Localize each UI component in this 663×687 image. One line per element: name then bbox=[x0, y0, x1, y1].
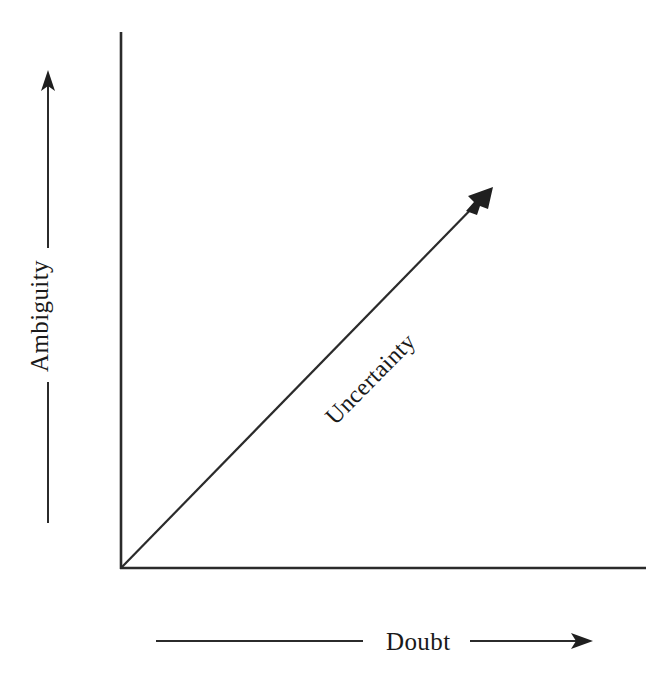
diagram-canvas: Ambiguity Doubt Uncertainty bbox=[0, 0, 663, 687]
uncertainty-diagram: Ambiguity Doubt Uncertainty bbox=[0, 0, 663, 687]
x-axis-label-text: Doubt bbox=[386, 628, 451, 655]
uncertainty-label-text: Uncertainty bbox=[320, 328, 420, 429]
y-axis-label-text: Ambiguity bbox=[26, 260, 53, 372]
uncertainty-line bbox=[121, 199, 481, 568]
uncertainty-arrowhead-icon bbox=[466, 187, 493, 215]
uncertainty-arrow-group bbox=[121, 187, 493, 568]
x-axis-label-group bbox=[156, 633, 593, 649]
